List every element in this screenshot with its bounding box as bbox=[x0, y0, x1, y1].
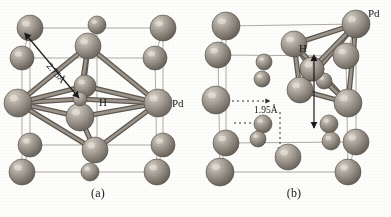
host-atom-highlight bbox=[14, 165, 22, 171]
host-atom-highlight bbox=[324, 119, 329, 123]
host-atom-highlight bbox=[156, 138, 163, 143]
host-atom-sphere bbox=[81, 163, 99, 181]
host-atom bbox=[66, 103, 94, 131]
host-atom-highlight bbox=[23, 138, 30, 143]
host-atom-sphere bbox=[334, 89, 362, 117]
host-atom bbox=[322, 132, 340, 150]
panel-b-interstitial-label: H bbox=[299, 42, 307, 54]
host-atom bbox=[335, 159, 361, 185]
host-atom-highlight bbox=[85, 167, 90, 171]
host-atom-sphere bbox=[342, 10, 370, 38]
interstitial-atom-sphere bbox=[300, 57, 324, 81]
host-atom bbox=[320, 115, 338, 133]
host-atom-highlight bbox=[15, 51, 22, 56]
host-atom bbox=[254, 71, 270, 87]
host-atom-sphere bbox=[82, 137, 108, 163]
host-atom-highlight bbox=[155, 21, 163, 27]
host-atom-highlight bbox=[210, 48, 218, 54]
host-atom-sphere bbox=[275, 144, 301, 170]
host-atom bbox=[144, 89, 172, 117]
host-atom-highlight bbox=[218, 18, 226, 24]
host-atom-sphere bbox=[9, 159, 35, 185]
host-atom-highlight bbox=[257, 75, 262, 79]
host-atom bbox=[256, 54, 272, 70]
panel-a: 2.75Å H Pd (a) bbox=[0, 0, 196, 217]
host-atom-highlight bbox=[280, 150, 288, 156]
host-atom-sphere bbox=[322, 132, 340, 150]
host-atom bbox=[81, 163, 99, 181]
host-atom-sphere bbox=[143, 46, 167, 70]
host-atom-highlight bbox=[253, 135, 258, 139]
host-atom bbox=[150, 15, 176, 41]
host-atom-sphere bbox=[88, 16, 106, 34]
host-atom-highlight bbox=[259, 58, 264, 62]
host-atom-highlight bbox=[92, 20, 97, 24]
panel-b-distance-label: 1.95Å bbox=[254, 104, 278, 115]
host-atom-sphere bbox=[75, 33, 101, 59]
host-atom-sphere bbox=[343, 129, 369, 155]
host-atom-highlight bbox=[338, 49, 346, 55]
panel-a-caption: (a) bbox=[0, 186, 196, 201]
host-atom bbox=[17, 15, 43, 41]
host-atom bbox=[202, 86, 230, 114]
host-atom-sphere bbox=[256, 54, 272, 70]
host-atom-highlight bbox=[148, 51, 155, 56]
host-atom bbox=[206, 158, 234, 186]
host-atom bbox=[10, 46, 34, 70]
host-atom-highlight bbox=[218, 136, 226, 142]
host-atom-highlight bbox=[326, 136, 331, 140]
host-atom-sphere bbox=[144, 89, 172, 117]
panel-a-host-label: Pd bbox=[172, 97, 184, 109]
interstitial-atom bbox=[300, 57, 324, 81]
host-atom-highlight bbox=[150, 95, 158, 101]
host-atom bbox=[143, 46, 167, 70]
host-atom-highlight bbox=[10, 95, 18, 101]
host-atom-sphere bbox=[335, 159, 361, 185]
host-atom-sphere bbox=[144, 159, 170, 185]
panel-b-scene: Pd H 1.95Å bbox=[196, 0, 391, 190]
host-atom-sphere bbox=[254, 71, 270, 87]
host-atom-highlight bbox=[87, 143, 95, 149]
host-atom bbox=[333, 43, 359, 69]
host-atom bbox=[88, 16, 106, 34]
host-atom bbox=[18, 133, 42, 157]
host-atom-sphere bbox=[4, 89, 32, 117]
host-atom-sphere bbox=[213, 130, 239, 156]
host-atom bbox=[275, 144, 301, 170]
panel-a-scene: 2.75Å H Pd bbox=[0, 0, 196, 190]
interstitial-atom-highlight bbox=[305, 62, 313, 68]
host-atom bbox=[342, 10, 370, 38]
host-atom-highlight bbox=[72, 109, 80, 115]
host-atom-sphere bbox=[254, 115, 272, 133]
panel-b: Pd H 1.95Å (b) bbox=[196, 0, 391, 217]
host-atom-sphere bbox=[151, 133, 175, 157]
host-atom bbox=[334, 89, 362, 117]
host-atom-highlight bbox=[258, 119, 263, 123]
host-atom bbox=[205, 42, 231, 68]
panel-a-interstitial-label: H bbox=[99, 96, 107, 108]
host-atom-highlight bbox=[208, 92, 216, 98]
host-atom-highlight bbox=[78, 80, 85, 85]
host-atom-sphere bbox=[17, 15, 43, 41]
host-atom bbox=[75, 33, 101, 59]
host-atom-highlight bbox=[80, 39, 88, 45]
host-atom-highlight bbox=[149, 165, 157, 171]
host-atom-highlight bbox=[348, 135, 356, 141]
host-atom bbox=[254, 115, 272, 133]
panel-b-caption: (b) bbox=[196, 186, 391, 201]
host-atom bbox=[250, 131, 266, 147]
host-atom-sphere bbox=[18, 133, 42, 157]
host-atom-highlight bbox=[22, 21, 30, 27]
host-atom bbox=[212, 12, 240, 40]
host-atom bbox=[9, 159, 35, 185]
host-atom bbox=[213, 130, 239, 156]
host-atom-highlight bbox=[340, 165, 348, 171]
host-atom-highlight bbox=[340, 95, 348, 101]
cell-edge bbox=[226, 24, 356, 26]
host-atom bbox=[151, 133, 175, 157]
host-atom-sphere bbox=[212, 12, 240, 40]
host-atom bbox=[144, 159, 170, 185]
host-atom-sphere bbox=[333, 43, 359, 69]
host-atom-sphere bbox=[66, 103, 94, 131]
host-atom bbox=[343, 129, 369, 155]
